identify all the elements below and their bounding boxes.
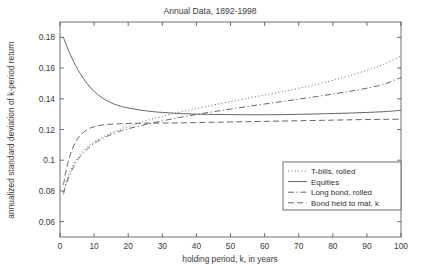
x-tick-label: 40	[192, 241, 202, 251]
x-tick-label: 70	[294, 241, 304, 251]
chart-figure: Annual Data, 1892-1998 01020304050607080…	[0, 0, 421, 271]
y-tick-label: 0.06	[39, 217, 56, 227]
x-tick-label: 0	[58, 241, 63, 251]
y-tick-label: 0.1	[43, 155, 55, 165]
chart-legend: T-bills, rolledEquitiesLong bond, rolled…	[283, 162, 401, 210]
line-chart: Annual Data, 1892-1998 01020304050607080…	[0, 0, 421, 271]
legend-label-3: Bond held to mat. k	[311, 199, 379, 208]
x-tick-label: 90	[362, 241, 372, 251]
series-line-1	[63, 37, 401, 114]
legend-label-0: T-bills, rolled	[311, 167, 355, 176]
x-axis-title: holding period, k, in years	[182, 254, 277, 264]
y-axis-title: annualized standard deviation of k-perio…	[6, 41, 16, 219]
y-tick-label: 0.18	[39, 32, 56, 42]
x-tick-label: 10	[89, 241, 99, 251]
x-tick-label: 100	[394, 241, 408, 251]
x-tick-label: 80	[328, 241, 338, 251]
x-tick-label: 50	[226, 241, 236, 251]
legend-label-2: Long bond, rolled	[311, 188, 372, 197]
y-tick-label: 0.16	[39, 63, 56, 73]
x-tick-label: 30	[158, 241, 168, 251]
y-tick-label: 0.08	[39, 186, 56, 196]
y-tick-label: 0.14	[39, 94, 56, 104]
x-tick-label: 20	[124, 241, 134, 251]
axes-ticks-group: 01020304050607080901000.060.080.10.120.1…	[39, 22, 409, 251]
legend-label-1: Equities	[311, 178, 339, 187]
chart-title: Annual Data, 1892-1998	[163, 6, 256, 16]
x-tick-label: 60	[260, 241, 270, 251]
y-tick-label: 0.12	[39, 125, 56, 135]
